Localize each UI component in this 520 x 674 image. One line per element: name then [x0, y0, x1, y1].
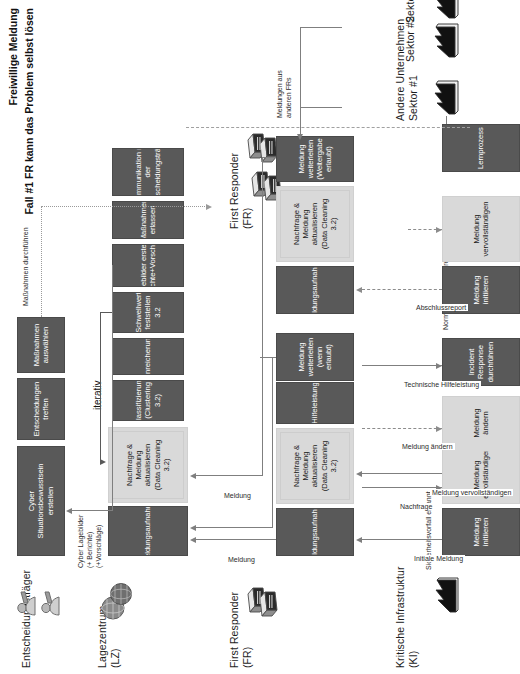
- task-ki-meldung-initiieren-1[interactable]: Meldung initiieren: [442, 508, 520, 556]
- lane-title-ki-line2: (KI): [407, 567, 420, 669]
- arrow-massnahmen-durchfuehren: [206, 205, 212, 211]
- flow-cyber-lagebilder-line3: (+Vorschläge): [94, 515, 103, 568]
- infrastructure-factory-icon: [434, 576, 460, 616]
- task-ki-meldung-aendern[interactable]: Meldung ändern: [446, 400, 516, 446]
- task-fr-nachfrage-2-line1: Nachfrage & Meldung: [292, 192, 311, 256]
- task-lz-meldungsaufnahme[interactable]: Meldungsaufnahme: [108, 506, 188, 556]
- task-lz-klassifizierung-line2: (Clustering 3.2): [143, 380, 162, 421]
- arrow-iterativ-loop: [100, 460, 106, 466]
- task-ki-incident-response[interactable]: Incident Response durchführen: [442, 338, 520, 386]
- arrow-meldung-1: [190, 538, 196, 544]
- sektor2-factory-icon: [432, 21, 460, 61]
- task-fr-weiterleiten-2-line2: (Weitergabe erlaubt): [315, 138, 334, 180]
- task-fr-nachfrage-2-line2: aktualisieren: [310, 192, 319, 256]
- task-lz-schwellwert[interactable]: Schwellwert feststellen 3.2: [112, 292, 184, 333]
- task-cyber-situationsbewusstsein[interactable]: Cyber Situationsbewusstsein erstellen: [17, 446, 65, 556]
- task-ki-incident-line2: durchführen: [486, 340, 495, 384]
- flow-label-massnahmen-durchfuehren: Maßnahmen durchführen: [22, 227, 31, 306]
- task-fr-nachfrage-aktualisieren-2[interactable]: Nachfrage & Meldung aktualisieren (Data …: [280, 190, 350, 258]
- task-fr-meldung-weiterleiten-2[interactable]: Meldung weiterleiten (Weitergabe erlaubt…: [276, 136, 354, 182]
- arrow-meldung-2: [190, 474, 196, 480]
- task-lz-kommunikation[interactable]: Kommunikation mit der Entscheidungsträge…: [112, 148, 184, 196]
- task-lz-nachfrage-line3: (Data Cleaning 3.2): [153, 433, 172, 497]
- task-massnahmen-auswaehlen[interactable]: Maßnahmen auswählen: [17, 317, 65, 373]
- flow-meldungen-line2: anderen FRs: [285, 70, 294, 118]
- task-ki-vervollstaendigen-2-line1: Meldung: [472, 202, 481, 257]
- lane-title-entscheidungstraeger: Entscheidungsträger: [20, 570, 33, 668]
- flow-label-technische-hilfeleistung: Technische Hilfeleistung: [402, 381, 481, 388]
- task-fr-nachfrage-1-line1: Nachfrage & Meldung: [292, 434, 311, 498]
- task-ki-incident-line1: Incident Response: [467, 340, 486, 384]
- lane-title-sektor3: Sektor #3: [404, 0, 417, 23]
- arrow-technische-hilfeleistung: [436, 364, 442, 370]
- task-lz-nachfrage-line2: aktualisieren: [143, 433, 152, 497]
- task-fr-nachfrage-aktualisieren-1[interactable]: Nachfrage & Meldung aktualisieren (Data …: [280, 432, 350, 500]
- task-ki-lernprozess[interactable]: Lernprozess: [442, 124, 520, 172]
- task-massnahmen-line2: auswählen: [41, 324, 50, 367]
- task-fr-hilfeleistung-label: Hilfeleistung: [310, 382, 319, 423]
- task-lz-kommunikation-line1: Kommunikation mit: [134, 148, 143, 196]
- task-lz-klassifizierung-line1: Klassifizierung: [134, 380, 143, 421]
- task-lz-meldungsaufnahme-label: Meldungsaufnahme: [143, 506, 152, 556]
- task-lz-schwellwert-line2: feststellen 3.2: [143, 292, 162, 333]
- task-lz-nachfrage-line1: Nachfrage & Meldung: [125, 433, 144, 497]
- task-lz-nachfrage-aktualisieren[interactable]: Nachfrage & Meldung aktualisieren (Data …: [112, 431, 184, 499]
- task-fr-weiterleiten-1-line1: Meldung weiterleiten: [297, 335, 316, 379]
- arrow-meldung-weiterleiten-to-lz: [190, 526, 196, 532]
- flow-label-meldung-2: Meldung: [222, 492, 253, 499]
- task-ki-initiieren-1-label: Meldung initiieren: [472, 510, 491, 554]
- task-ki-meldung-vervollstaendigen-2[interactable]: Meldung vervollständigen: [446, 200, 516, 258]
- task-entscheidungen-line2: treffen: [41, 382, 50, 436]
- sektor3-factory-icon: [432, 0, 460, 22]
- flow-label-meldung-1: Meldung: [226, 556, 257, 563]
- flow-label-meldung-aendern: Meldung ändern: [400, 443, 455, 450]
- decision-maker-person-icon-2: [40, 590, 60, 616]
- task-cyber-line3: erstellen: [46, 463, 55, 538]
- flow-label-abschlussreport: Abschlussreport: [414, 304, 468, 311]
- task-fr-meldung-weiterleiten-1[interactable]: Meldung weiterleiten (wenn erlaubt): [276, 333, 354, 381]
- arrow-cyber-lagebilder: [66, 509, 72, 515]
- task-entscheidungen-line1: Entscheidungen: [32, 382, 41, 436]
- task-cyber-line2: Situationsbewusstsein: [36, 463, 45, 538]
- arrow-meldung-aendern: [436, 427, 442, 433]
- flow-label-meldungen-aus-anderen-frs: Meldungen aus anderen FRs: [276, 70, 294, 118]
- lane-title-ki-line1: Kritische Infrastruktur: [394, 567, 407, 669]
- flow-cyber-lagebilder-line1: Cyber Lagebilder: [76, 515, 85, 568]
- task-fr-nachfrage-1-line2: aktualisieren: [310, 434, 319, 498]
- task-fr-meldungsaufnahme-2-label: Meldungsaufnahme: [310, 266, 319, 314]
- lane-title-kritische-infrastruktur: Kritische Infrastruktur (KI): [394, 567, 420, 669]
- task-lz-klassifizierung[interactable]: Klassifizierung (Clustering 3.2): [112, 380, 184, 421]
- arrow-lernprozess: [436, 228, 442, 234]
- task-lz-anreicherung-label: Anreicherung: [143, 338, 152, 375]
- task-ki-vervollstaendigen-2-line2: vervollständigen: [481, 202, 490, 257]
- task-fr-meldungsaufnahme-2[interactable]: Meldungsaufnahme: [276, 266, 354, 314]
- operations-center-globe-icon: [100, 578, 134, 622]
- lane-title-first-responder-line1: First Responder: [228, 592, 241, 668]
- task-ki-lernprozess-label: Lernprozess: [476, 127, 485, 169]
- task-lz-lagebilder-erstellen[interactable]: Lagebilder erstellen (Berichte+Vorschläg…: [112, 244, 184, 287]
- task-fr-hilfeleistung[interactable]: Hilfeleistung: [276, 382, 354, 424]
- arrow-initiale-meldung: [356, 538, 362, 544]
- task-fr-meldungsaufnahme-1-label: Meldungsaufnahme: [310, 508, 319, 556]
- task-entscheidungen-treffen[interactable]: Entscheidungen treffen: [17, 378, 65, 440]
- diagram-title-line2: Fall #1 FR kann das Problem selbst lösen: [22, 8, 38, 215]
- task-lz-kommunikation-line2: der: [143, 148, 152, 196]
- sektor1-factory-icon: [432, 78, 460, 118]
- task-ki-initiieren-2-label: Meldung initiieren: [472, 268, 491, 312]
- task-massnahmen-line1: Maßnahmen: [32, 324, 41, 367]
- task-lz-lagebilder-line2: (Berichte+Vorschläge): [148, 244, 157, 287]
- task-fr-meldungsaufnahme-1[interactable]: Meldungsaufnahme: [276, 508, 354, 556]
- flow-label-initiale-meldung: Initiale Meldung: [412, 555, 465, 562]
- task-ki-aendern-label: Meldung ändern: [472, 402, 491, 444]
- decision-maker-person-icon-1: [16, 590, 36, 616]
- task-lz-schwellwert-line1: Schwellwert: [134, 292, 143, 333]
- arrow-abschlussreport: [356, 288, 362, 294]
- task-lz-anreicherung[interactable]: Anreicherung: [112, 338, 184, 375]
- task-cyber-line1: Cyber: [27, 463, 36, 538]
- lane-title-sektor2: Sektor #2: [404, 16, 417, 62]
- arrow-meldungen-aus-anderen-frs: [297, 134, 303, 140]
- flow-meldungen-line1: Meldungen aus: [276, 70, 285, 118]
- lane-title-fr2-line1: First Responder: [228, 153, 241, 229]
- diagram-title-line1: Freiwillige Meldung: [6, 8, 22, 215]
- task-fr-nachfrage-2-line3: (Data Cleaning 3.2): [320, 192, 339, 256]
